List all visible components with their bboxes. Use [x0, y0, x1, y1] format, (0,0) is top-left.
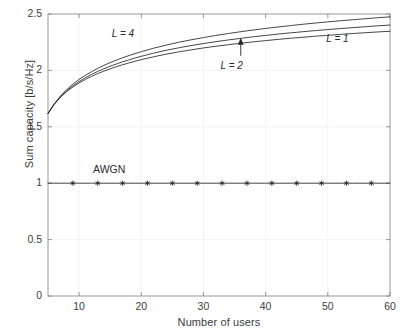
- y-tick-label: 1: [12, 176, 42, 188]
- annotation-l2: L = 2: [221, 60, 243, 71]
- y-tick-label: 0: [12, 289, 42, 301]
- annotation-l1: L = 1: [326, 33, 348, 44]
- x-tick-label: 20: [126, 300, 156, 312]
- x-tick-label: 10: [64, 300, 94, 312]
- y-tick-label: 2: [12, 63, 42, 75]
- y-tick-label: 1.5: [12, 120, 42, 132]
- y-tick-label: 2.5: [12, 7, 42, 19]
- x-tick-label: 50: [313, 300, 343, 312]
- chart-figure: Sum capacity [b/s/Hz] Number of users 00…: [0, 0, 405, 336]
- x-tick-label: 30: [188, 300, 218, 312]
- y-tick-label: 0.5: [12, 233, 42, 245]
- chart-plot-svg: [0, 0, 405, 336]
- annotation-l4: L = 4: [112, 28, 134, 39]
- annotation-awgn: AWGN: [93, 163, 125, 175]
- x-tick-label: 60: [375, 300, 405, 312]
- plot-border: [48, 14, 390, 296]
- x-axis-label: Number of users: [48, 316, 390, 328]
- gridlines: [48, 14, 390, 296]
- tick-marks: [48, 14, 390, 296]
- x-tick-label: 40: [251, 300, 281, 312]
- annotation-arrow: [238, 38, 244, 56]
